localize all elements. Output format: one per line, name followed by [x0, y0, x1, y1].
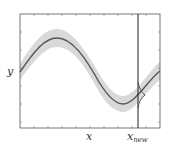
gp-diagram: y x xnew — [0, 0, 171, 149]
y-axis-label: y — [6, 65, 14, 78]
x-axis-label: x — [86, 130, 93, 143]
x-new-label: xnew — [127, 130, 148, 144]
confidence-band — [20, 29, 160, 112]
